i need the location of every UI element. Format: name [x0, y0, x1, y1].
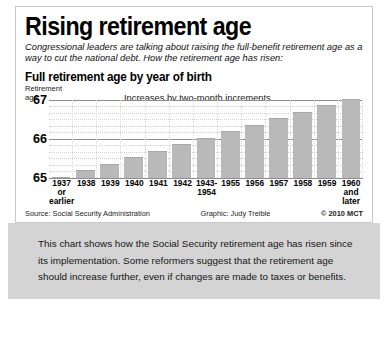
deck-text: Congressional leaders are talking about …: [25, 42, 363, 65]
bar: [197, 138, 216, 178]
bar-cell: [315, 100, 339, 178]
x-tick-label: 1955: [219, 179, 243, 207]
plot-canvas: [49, 100, 363, 178]
x-tick-label: 1942: [170, 179, 194, 207]
x-tick-line: 1955: [219, 179, 243, 188]
infographic: Rising retirement age Congressional lead…: [0, 0, 388, 343]
bar-cell: [291, 100, 315, 178]
y-axis-ticks: 656667: [25, 100, 47, 178]
x-tick-line: later: [339, 197, 363, 206]
y-tick-67: 67: [33, 93, 47, 107]
x-tick-label: 1960andlater: [339, 179, 363, 207]
x-tick-label: 1941: [146, 179, 170, 207]
bar: [342, 99, 361, 178]
caption-block: This chart shows how the Social Security…: [8, 223, 380, 298]
x-tick-line: 1940: [122, 179, 146, 188]
bar: [245, 125, 264, 178]
y-tick-66: 66: [33, 132, 47, 146]
y-tick-65: 65: [33, 171, 47, 185]
bar: [221, 131, 240, 178]
bar-cell: [170, 100, 194, 178]
bar-cell: [49, 100, 73, 178]
bar-separator: [362, 100, 363, 178]
x-tick-label: 1940: [122, 179, 146, 207]
x-tick-line: 1959: [315, 179, 339, 188]
bar-cell: [121, 100, 145, 178]
chart-panel: Rising retirement age Congressional lead…: [15, 6, 373, 223]
x-tick-label: 1939: [98, 179, 122, 207]
x-tick-line: 1942: [170, 179, 194, 188]
x-tick-label: 1956: [243, 179, 267, 207]
bar-cell: [266, 100, 290, 178]
bar: [148, 151, 167, 178]
bar-cell: [97, 100, 121, 178]
x-tick-line: 1956: [243, 179, 267, 188]
x-tick-line: 1958: [291, 179, 315, 188]
bar-cell: [242, 100, 266, 178]
plot-area: 656667: [25, 100, 363, 178]
bar: [317, 105, 336, 177]
x-tick-line: 1939: [98, 179, 122, 188]
bar-cell: [194, 100, 218, 178]
bar-cell: [146, 100, 170, 178]
page-title: Rising retirement age: [25, 14, 339, 39]
x-tick-label: 1943-1954: [195, 179, 219, 207]
graphic-credit: Graphic: Judy Treible: [201, 209, 271, 218]
x-tick-label: 1957: [267, 179, 291, 207]
x-axis-ticks: 1937orearlier193819391940194119421943-19…: [49, 179, 363, 207]
x-tick-line: earlier: [49, 197, 74, 206]
bar-cell: [73, 100, 97, 178]
bar: [100, 164, 119, 178]
chart-subhead: Full retirement age by year of birth: [25, 70, 346, 84]
x-tick-label: 1938: [74, 179, 98, 207]
bar: [76, 170, 95, 178]
x-tick-line: 1957: [267, 179, 291, 188]
x-tick-line: 1941: [146, 179, 170, 188]
credits-row: Source: Social Security Administration G…: [25, 209, 363, 219]
bar-series: [49, 100, 363, 178]
x-tick-line: 1954: [195, 188, 219, 197]
bar-cell: [218, 100, 242, 178]
copyright-text: © 2010 MCT: [321, 209, 363, 218]
x-tick-label: 1959: [315, 179, 339, 207]
x-tick-label: 1958: [291, 179, 315, 207]
bar: [172, 144, 191, 177]
bar: [269, 118, 288, 178]
bar-cell: [339, 100, 363, 178]
bar: [124, 157, 143, 178]
bar: [293, 112, 312, 178]
x-tick-label: 1937orearlier: [49, 179, 74, 207]
x-tick-line: 1938: [74, 179, 98, 188]
source-text: Source: Social Security Administration: [25, 209, 150, 218]
